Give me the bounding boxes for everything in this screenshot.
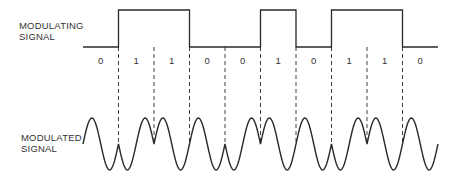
bit-label: 1 bbox=[382, 55, 387, 66]
bit-label: 0 bbox=[98, 55, 103, 66]
bit-boundary-dashes bbox=[119, 47, 403, 145]
bit-label: 1 bbox=[169, 55, 174, 66]
psk-diagram bbox=[0, 0, 460, 185]
bit-label: 0 bbox=[205, 55, 210, 66]
bit-label: 1 bbox=[134, 55, 139, 66]
modulating-square-wave bbox=[83, 10, 438, 47]
bit-label: 1 bbox=[347, 55, 352, 66]
bit-label: 0 bbox=[240, 55, 245, 66]
bit-label: 0 bbox=[418, 55, 423, 66]
bit-label: 0 bbox=[311, 55, 316, 66]
bit-label: 1 bbox=[276, 55, 281, 66]
